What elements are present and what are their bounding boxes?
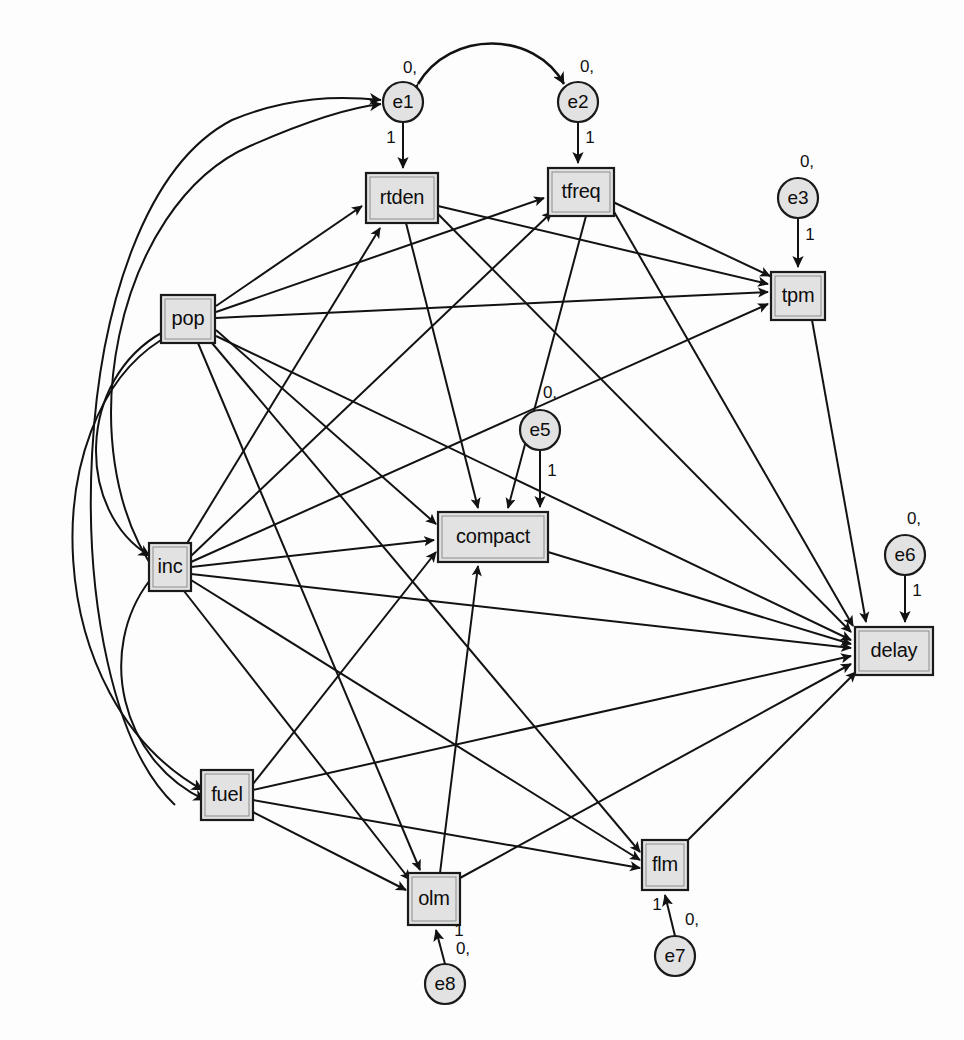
mean-label-e8: 0, [456,939,470,958]
node-e5-label: e5 [529,419,550,440]
node-rtden-label: rtden [380,186,425,208]
node-tfreq-label: tfreq [561,180,600,202]
path-inc-to-delay [191,574,851,648]
mean-label-e2: 0, [580,57,594,76]
path-flm-to-delay [686,672,856,842]
path-pop-to-rtden [216,206,362,306]
mean-label-e5: 0, [543,383,557,402]
covariance-e1-e2 [418,44,564,85]
node-e3[interactable]: e3 [778,178,818,218]
node-e8[interactable]: e8 [425,964,465,1004]
node-pop[interactable]: pop [161,295,215,343]
path-pop-to-flm [212,343,640,852]
path-pop-to-delay [216,336,851,640]
node-e6-label: e6 [894,544,915,565]
node-e3-label: e3 [787,187,808,208]
node-e8-label: e8 [434,973,455,994]
node-e2-label: e2 [567,91,588,112]
covariance-inc-fuel [121,580,205,800]
node-e1-label: e1 [392,91,413,112]
node-delay[interactable]: delay [855,627,933,675]
node-e6[interactable]: e6 [885,535,925,575]
loading-e8-olm [436,930,445,964]
path-inc-to-tfreq [191,212,552,556]
path-inc-to-olm [184,591,410,880]
node-tpm[interactable]: tpm [771,272,825,320]
path-olm-to-compact [440,566,478,873]
mean-label-e1: 0, [403,58,417,77]
node-inc-label: inc [158,555,183,577]
path-fuel-to-e1-arc [91,98,381,805]
node-olm[interactable]: olm [408,873,460,925]
loading-label-e2: 1 [585,128,594,147]
loading-label-e5: 1 [547,461,556,480]
loading-label-e1: 1 [386,128,395,147]
node-flm-label: flm [652,853,678,875]
loading-label-e6: 1 [912,581,921,600]
node-e5[interactable]: e5 [520,410,560,450]
path-fuel-to-delay [253,656,851,790]
node-e7-label: e7 [664,945,685,966]
mean-label-e7: 0, [685,910,699,929]
path-fuel-to-compact [253,552,436,784]
path-pop-to-tpm [216,292,768,318]
path-inc-to-flm [191,580,640,860]
node-fuel-label: fuel [211,783,242,805]
node-compact[interactable]: compact [438,512,548,562]
node-tfreq[interactable]: tfreq [548,168,614,216]
node-rtden[interactable]: rtden [366,173,438,223]
loading-label-e8: 1 [454,921,463,940]
loading-label-e7: 1 [652,895,661,914]
covariance-arc-group [73,44,564,806]
loading-label-e3: 1 [805,225,814,244]
node-flm[interactable]: flm [642,840,688,890]
sem-canvas: rtden tfreq tpm pop compact [0,0,964,1040]
node-olm-label: olm [418,887,450,909]
node-compact-label: compact [456,525,531,547]
path-inc-to-rtden [186,228,380,545]
parameter-label-group: 0, 1 0, 1 0, 1 0, 1 0, 1 0, 1 0, 1 [386,57,921,958]
path-tpm-to-delay [812,320,866,622]
node-fuel[interactable]: fuel [201,770,253,820]
node-pop-label: pop [172,307,205,329]
node-delay-label: delay [871,639,918,661]
node-e2[interactable]: e2 [558,82,598,122]
node-inc[interactable]: inc [149,543,191,591]
mean-label-e6: 0, [907,509,921,528]
node-tpm-label: tpm [782,284,815,306]
loading-e7-flm [665,895,675,936]
observed-variable-group: rtden tfreq tpm pop compact [149,168,933,925]
mean-label-e3: 0, [800,152,814,171]
sem-diagram-root: rtden tfreq tpm pop compact [0,0,964,1040]
node-e1[interactable]: e1 [383,82,423,122]
node-e7[interactable]: e7 [655,936,695,976]
path-rtden-to-compact [406,223,478,508]
